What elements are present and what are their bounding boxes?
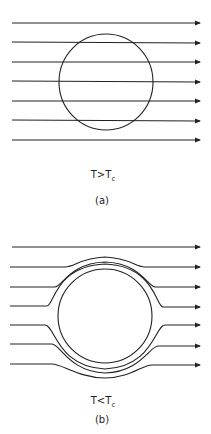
panel-a-condition-label: T>Tc — [53, 169, 153, 183]
panel-b-sphere — [58, 269, 152, 363]
panel-a-field-lines — [12, 23, 200, 140]
panel-b-caption: (b) — [52, 414, 152, 425]
panel-a-condition-main: T>T — [91, 169, 112, 180]
panel-b-condition-sub: c — [111, 401, 115, 409]
panel-b-field-lines — [10, 247, 200, 378]
diagram-canvas — [0, 0, 211, 434]
panel-b-condition-label: T<Tc — [53, 395, 153, 409]
panel-a-caption: (a) — [52, 195, 152, 206]
panel-b-condition-main: T<T — [91, 395, 112, 406]
panel-a-condition-sub: c — [111, 175, 115, 183]
